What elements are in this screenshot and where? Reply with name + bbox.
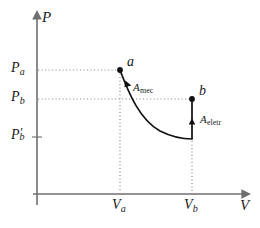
- point-a-label: a: [127, 55, 134, 69]
- ytick-label-pb-prime: P′b: [11, 128, 20, 142]
- expansion-curve: [120, 70, 192, 139]
- ytick-label-pa-base: P: [11, 60, 20, 75]
- annotation-a-eletr-sub: eletr: [207, 118, 221, 127]
- ytick-label-pb-base: P: [11, 89, 20, 104]
- ytick-label-pb-sub: b: [20, 95, 25, 106]
- annotation-a-mec-base: A: [133, 81, 140, 93]
- annotation-a-mec-sub: mec: [140, 86, 153, 95]
- ytick-label-pb-prime-sub: b: [20, 132, 25, 142]
- pv-diagram-figure: P V Pa Pb P′b Va Vb a b Amec Aeletr: [0, 0, 260, 228]
- a-eletr-arrow-icon: [189, 118, 196, 124]
- xtick-label-va-base: V: [112, 197, 121, 212]
- ytick-label-pa: Pa: [11, 61, 25, 77]
- xtick-label-vb: Vb: [184, 198, 198, 214]
- point-a-marker: [117, 67, 123, 73]
- xtick-label-va-sub: a: [121, 203, 126, 214]
- point-b-marker: [189, 96, 195, 102]
- xtick-label-vb-sub: b: [193, 203, 198, 214]
- annotation-a-eletr: Aeletr: [200, 114, 221, 127]
- point-b-label: b: [199, 84, 206, 98]
- annotation-a-mec: Amec: [133, 82, 153, 95]
- curve-direction-arrow-icon: [124, 81, 131, 88]
- y-axis-label: P: [42, 10, 51, 25]
- x-axis-label: V: [240, 198, 249, 213]
- xtick-label-vb-base: V: [184, 197, 193, 212]
- ytick-label-pb: Pb: [11, 90, 25, 106]
- annotation-a-eletr-base: A: [200, 113, 207, 125]
- ytick-label-pa-sub: a: [20, 66, 25, 77]
- xtick-label-va: Va: [112, 198, 126, 214]
- ytick-label-pb-prime-base: P: [11, 127, 20, 142]
